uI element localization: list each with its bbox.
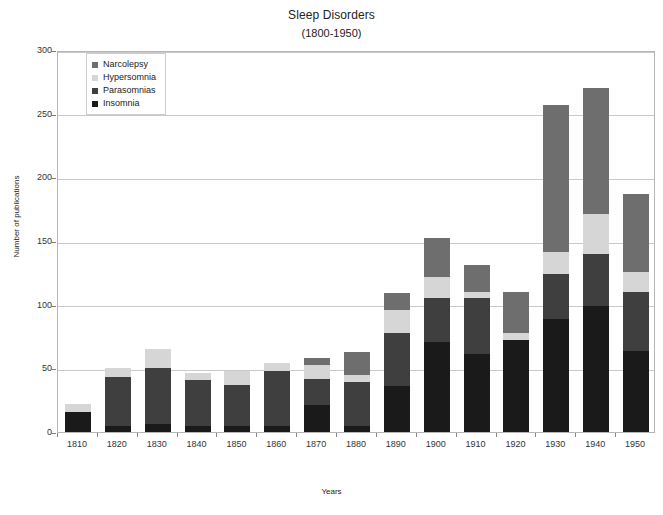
- bar-segment[interactable]: [224, 426, 250, 432]
- bar-segment[interactable]: [543, 274, 569, 319]
- y-tick-label: 250: [16, 110, 52, 119]
- legend-item-label: Hypersomnia: [103, 73, 156, 82]
- bar-stack[interactable]: [623, 194, 649, 432]
- x-tick-mark: [416, 433, 417, 437]
- bar-segment[interactable]: [464, 265, 490, 292]
- y-tick-mark: [51, 242, 56, 243]
- x-tick-mark: [216, 433, 217, 437]
- bar-segment[interactable]: [543, 319, 569, 432]
- bar-segment[interactable]: [224, 371, 250, 385]
- bar-stack[interactable]: [424, 238, 450, 432]
- bar-segment[interactable]: [65, 404, 91, 412]
- bar-stack[interactable]: [464, 265, 490, 432]
- bar-segment[interactable]: [503, 340, 529, 432]
- x-tick-mark: [496, 433, 497, 437]
- bar-segment[interactable]: [623, 194, 649, 272]
- bar-stack[interactable]: [583, 88, 609, 432]
- x-tick-mark: [137, 433, 138, 437]
- bar-segment[interactable]: [65, 412, 91, 432]
- bar-segment[interactable]: [543, 105, 569, 253]
- bar-segment[interactable]: [185, 380, 211, 426]
- x-tick-mark: [177, 433, 178, 437]
- legend-item-label: Insomnia: [103, 99, 140, 108]
- x-tick-label: 1870: [294, 439, 338, 449]
- bar-stack[interactable]: [503, 292, 529, 432]
- y-tick-label: 300: [16, 46, 52, 55]
- bar-segment[interactable]: [224, 385, 250, 426]
- x-tick-mark: [336, 433, 337, 437]
- bar-segment[interactable]: [105, 426, 131, 432]
- bar-segment[interactable]: [145, 349, 171, 368]
- bar-stack[interactable]: [304, 358, 330, 432]
- x-tick-label: 1830: [135, 439, 179, 449]
- x-tick-label: 1840: [175, 439, 219, 449]
- legend-item[interactable]: Insomnia: [92, 97, 156, 110]
- bar-segment[interactable]: [264, 426, 290, 432]
- y-tick-mark: [51, 51, 56, 52]
- legend-swatch-icon: [92, 62, 98, 68]
- bar-segment[interactable]: [304, 379, 330, 406]
- bar-segment[interactable]: [105, 368, 131, 377]
- x-tick-label: 1940: [573, 439, 617, 449]
- legend-item-label: Parasomnias: [103, 86, 156, 95]
- bar-segment[interactable]: [384, 386, 410, 432]
- bar-segment[interactable]: [145, 424, 171, 432]
- bar-stack[interactable]: [145, 349, 171, 432]
- legend-swatch-icon: [92, 88, 98, 94]
- bar-segment[interactable]: [623, 292, 649, 351]
- x-tick-label: 1930: [533, 439, 577, 449]
- bar-segment[interactable]: [344, 352, 370, 375]
- bar-segment[interactable]: [185, 426, 211, 432]
- bar-segment[interactable]: [304, 405, 330, 432]
- bar-segment[interactable]: [384, 333, 410, 386]
- bar-segment[interactable]: [344, 382, 370, 425]
- y-tick-label: 0: [16, 428, 52, 437]
- bar-segment[interactable]: [145, 368, 171, 424]
- bar-segment[interactable]: [623, 351, 649, 432]
- bar-segment[interactable]: [503, 333, 529, 341]
- bar-segment[interactable]: [623, 272, 649, 292]
- x-axis-title: Years: [0, 487, 663, 496]
- bar-segment[interactable]: [424, 298, 450, 341]
- legend-item[interactable]: Parasomnias: [92, 84, 156, 97]
- bar-segment[interactable]: [384, 310, 410, 333]
- bar-segment[interactable]: [424, 342, 450, 432]
- bar-segment[interactable]: [264, 371, 290, 426]
- legend-item[interactable]: Narcolepsy: [92, 58, 156, 71]
- bar-stack[interactable]: [224, 371, 250, 432]
- bar-segment[interactable]: [583, 306, 609, 432]
- bar-stack[interactable]: [105, 368, 131, 432]
- bar-segment[interactable]: [424, 277, 450, 299]
- x-tick-mark: [535, 433, 536, 437]
- bar-stack[interactable]: [344, 352, 370, 432]
- bar-segment[interactable]: [105, 377, 131, 425]
- bar-stack[interactable]: [384, 293, 410, 432]
- bar-stack[interactable]: [65, 404, 91, 432]
- bar-segment[interactable]: [464, 354, 490, 432]
- y-tick-mark: [51, 115, 56, 116]
- bar-segment[interactable]: [264, 363, 290, 371]
- bar-segment[interactable]: [464, 298, 490, 354]
- bar-segment[interactable]: [344, 426, 370, 432]
- x-tick-label: 1820: [95, 439, 139, 449]
- bar-segment[interactable]: [503, 292, 529, 333]
- bar-stack[interactable]: [185, 373, 211, 432]
- bar-segment[interactable]: [424, 238, 450, 276]
- bar-segment[interactable]: [583, 254, 609, 306]
- y-tick-label: 150: [16, 237, 52, 246]
- x-tick-label: 1910: [454, 439, 498, 449]
- bar-stack[interactable]: [264, 363, 290, 432]
- bar-segment[interactable]: [384, 293, 410, 310]
- bar-stack[interactable]: [543, 105, 569, 432]
- x-tick-label: 1900: [414, 439, 458, 449]
- bar-segment[interactable]: [543, 252, 569, 274]
- bar-segment[interactable]: [583, 214, 609, 253]
- legend: NarcolepsyHypersomniaParasomniasInsomnia: [86, 53, 166, 115]
- legend-item[interactable]: Hypersomnia: [92, 71, 156, 84]
- y-tick-mark: [51, 178, 56, 179]
- y-tick-mark: [51, 433, 56, 434]
- y-tick-mark: [51, 306, 56, 307]
- bar-segment[interactable]: [344, 375, 370, 383]
- bar-segment[interactable]: [583, 88, 609, 214]
- bar-segment[interactable]: [304, 365, 330, 379]
